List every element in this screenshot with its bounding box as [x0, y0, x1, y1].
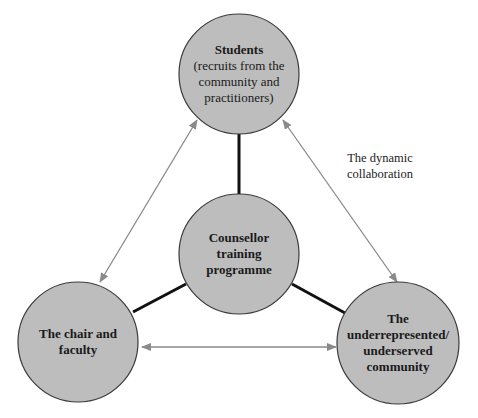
- node-center: [179, 194, 299, 314]
- connector-center-faculty: [133, 284, 186, 312]
- annotation-line-2: collaboration: [330, 166, 430, 182]
- connector-center-community: [292, 284, 345, 313]
- dynamic-collaboration-annotation: The dynamic collaboration: [330, 150, 430, 182]
- node-students: [179, 14, 299, 134]
- diagram-canvas: Students (recruits from the community an…: [0, 0, 478, 418]
- node-faculty: [18, 282, 138, 402]
- node-community: [337, 282, 459, 404]
- annotation-line-1: The dynamic: [330, 150, 430, 166]
- diagram-graphics: [0, 0, 478, 418]
- arrow-students-community: [283, 120, 397, 282]
